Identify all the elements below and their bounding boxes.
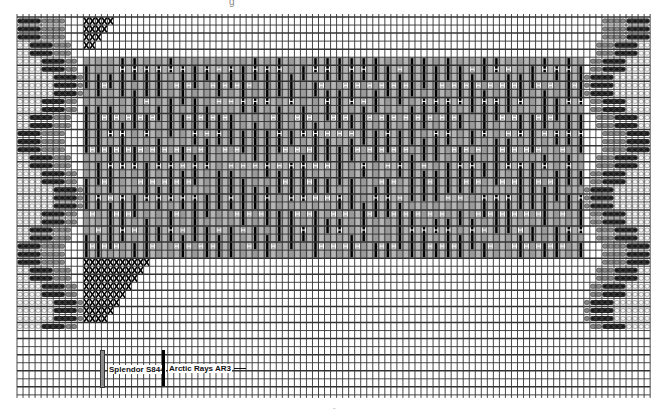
footer-fragment: -	[333, 403, 336, 411]
legend-swatch-black	[162, 350, 165, 386]
legend-label: Splendor S844	[108, 365, 166, 374]
legend-label: Arctic Rays AR3	[168, 364, 232, 373]
legend-arctic-rays: Arctic Rays AR3	[162, 350, 246, 386]
legend-swatch-gray	[100, 350, 105, 388]
